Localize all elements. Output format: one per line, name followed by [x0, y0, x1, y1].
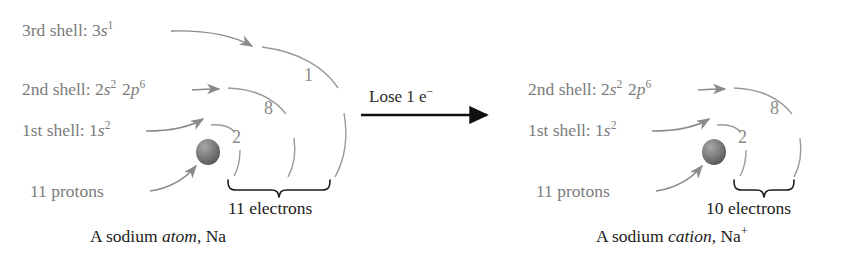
left-shell-3-prefix: 3rd shell: — [22, 20, 92, 40]
right-protons-label: 11 protons — [536, 183, 610, 201]
left-shell-3-label: 3rd shell: 3s1 — [22, 22, 113, 40]
left-protons-label: 11 protons — [30, 183, 104, 201]
right-shell-1-orbital-electrons: 2 — [611, 119, 617, 131]
reaction-label-charge: − — [427, 85, 434, 98]
left-shell-3-orbital-n: 3 — [92, 20, 101, 40]
reaction-label: Lose 1 e− — [369, 88, 433, 105]
right-shell-arc-2-upper — [734, 88, 792, 114]
left-leader-shell-2 — [192, 89, 219, 90]
right-arc-count-1: 2 — [738, 128, 747, 146]
left-shell-1-label: 1st shell: 1s2 — [22, 122, 110, 140]
left-shell-1-prefix: 1st shell: — [22, 120, 89, 140]
left-shell-2-label: 2nd shell: 2s2 2p6 — [22, 81, 145, 99]
left-shell-3-orbital-electrons: 1 — [108, 19, 114, 31]
right-caption-emphasis: cation — [668, 226, 712, 246]
left-shell-2-prefix: 2nd shell: — [22, 79, 95, 99]
right-leader-shell-2 — [698, 89, 725, 90]
left-shell-2-orbital-b-electrons: 6 — [140, 78, 146, 90]
right-electrons-brace — [734, 180, 794, 197]
left-leader-protons — [150, 166, 196, 191]
left-shell-arc-2-lower — [288, 138, 295, 177]
right-electrons-total: 10 electrons — [706, 200, 791, 218]
right-nucleus — [702, 139, 726, 165]
left-electrons-brace — [228, 180, 330, 197]
right-leader-shell-1 — [652, 119, 709, 131]
left-shell-2-orbital-a-n: 2 — [95, 79, 104, 99]
right-caption-charge: + — [741, 224, 748, 238]
left-shell-1-orbital-letter: s — [98, 120, 105, 140]
left-caption: A sodium atom, Na — [90, 228, 226, 246]
left-caption-emphasis: atom — [162, 226, 197, 246]
right-shell-1-orbital-letter: s — [604, 120, 611, 140]
right-shell-2-prefix: 2nd shell: — [528, 79, 601, 99]
left-caption-suffix: , Na — [197, 226, 226, 246]
right-shell-2-label: 2nd shell: 2s2 2p6 — [528, 81, 651, 99]
right-shell-2-orbital-a-n: 2 — [601, 79, 610, 99]
right-leader-protons — [656, 166, 702, 191]
left-shell-arc-2-upper — [228, 88, 286, 114]
right-caption: A sodium cation, Na+ — [596, 228, 748, 246]
left-arc-count-3: 1 — [304, 66, 313, 84]
left-shell-arc-1-lower — [234, 150, 240, 176]
left-shell-arc-3-lower — [335, 113, 346, 177]
right-shell-arc-1-lower — [740, 150, 746, 176]
right-arc-count-2: 8 — [770, 99, 779, 117]
left-shell-3-orbital-letter: s — [101, 20, 108, 40]
left-shell-1-orbital-n: 1 — [89, 120, 98, 140]
left-shell-arc-3-upper — [262, 47, 338, 88]
left-electrons-total: 11 electrons — [228, 200, 312, 218]
right-shell-arc-2-lower — [794, 138, 801, 177]
right-shell-2-orbital-b-n: 2 — [628, 79, 637, 99]
left-leader-shell-1 — [146, 119, 203, 131]
right-shell-1-prefix: 1st shell: — [528, 120, 595, 140]
left-caption-prefix: A sodium — [90, 226, 162, 246]
left-arc-count-2: 8 — [264, 99, 273, 117]
left-nucleus — [196, 139, 220, 165]
right-caption-prefix: A sodium — [596, 226, 668, 246]
right-shell-1-orbital-n: 1 — [595, 120, 604, 140]
left-leader-shell-3 — [171, 31, 252, 46]
left-shell-2-orbital-b-n: 2 — [122, 79, 131, 99]
left-shell-2-orbital-b-letter: p — [131, 79, 140, 99]
right-shell-1-label: 1st shell: 1s2 — [528, 122, 616, 140]
left-atom-group — [146, 31, 346, 197]
right-caption-suffix: , Na — [712, 226, 741, 246]
right-shell-2-orbital-b-electrons: 6 — [646, 78, 652, 90]
reaction-label-text: Lose 1 e — [369, 87, 427, 106]
right-shell-2-orbital-b-letter: p — [637, 79, 646, 99]
diagram-canvas: 3rd shell: 3s1 2nd shell: 2s2 2p6 1st sh… — [0, 0, 847, 255]
left-shell-1-orbital-electrons: 2 — [105, 119, 111, 131]
left-arc-count-1: 2 — [232, 128, 241, 146]
